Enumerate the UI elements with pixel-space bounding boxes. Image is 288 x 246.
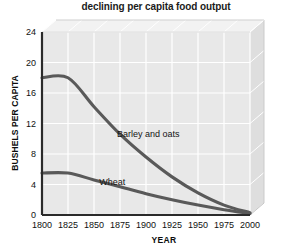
- x-tick-label: 1925: [162, 220, 182, 230]
- x-tick-labels: 180018251850187519001925195019752000: [32, 220, 260, 230]
- x-tick-label: 1875: [110, 220, 130, 230]
- y-tick-labels: 04812162024: [26, 27, 36, 220]
- y-tick-label: 24: [26, 27, 36, 37]
- y-tick-label: 0: [31, 210, 36, 220]
- x-tick-label: 1975: [214, 220, 234, 230]
- x-tick-label: 1900: [136, 220, 156, 230]
- series-label: Wheat: [99, 177, 126, 187]
- y-tick-label: 20: [26, 58, 36, 68]
- y-tick-label: 12: [26, 119, 36, 129]
- x-tick-label: 1825: [58, 220, 78, 230]
- y-tick-label: 8: [31, 149, 36, 159]
- series-label: Barley and oats: [117, 129, 180, 139]
- x-tick-label: 1800: [32, 220, 52, 230]
- x-tick-label: 2000: [240, 220, 260, 230]
- chart-container: declining per capita food output BUSHELS…: [0, 0, 288, 246]
- plot-area: 04812162024 1800182518501875190019251950…: [0, 0, 288, 246]
- x-tick-label: 1850: [84, 220, 104, 230]
- y-tick-label: 16: [26, 88, 36, 98]
- x-tick-label: 1950: [188, 220, 208, 230]
- y-tick-label: 4: [31, 180, 36, 190]
- plot-3d-box: [42, 20, 264, 215]
